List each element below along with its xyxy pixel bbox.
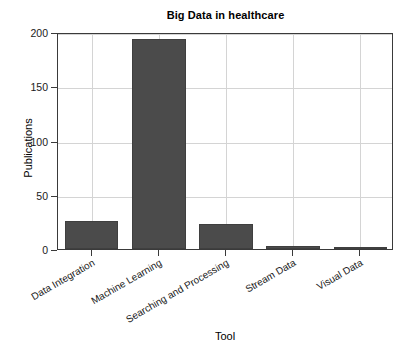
x-tick-mark bbox=[292, 250, 293, 256]
y-tick-mark bbox=[51, 196, 57, 197]
y-tick-mark bbox=[51, 33, 57, 34]
y-tick-mark bbox=[51, 87, 57, 88]
y-tick-label: 100 bbox=[30, 136, 48, 148]
y-tick-label: 150 bbox=[30, 81, 48, 93]
chart-figure: Big Data in healthcare Publications 0501… bbox=[0, 0, 414, 357]
x-tick-mark bbox=[91, 250, 92, 256]
bars-layer bbox=[58, 34, 392, 249]
chart-title: Big Data in healthcare bbox=[57, 9, 394, 21]
bar bbox=[132, 39, 186, 249]
y-tick-mark bbox=[51, 250, 57, 251]
y-tick-label: 0 bbox=[42, 244, 48, 256]
x-axis-label: Tool bbox=[57, 330, 393, 342]
bar bbox=[266, 246, 320, 249]
y-axis-label: Publications bbox=[22, 88, 34, 208]
y-tick-label: 50 bbox=[36, 190, 48, 202]
plot-area bbox=[57, 33, 393, 250]
x-tick-mark bbox=[359, 250, 360, 256]
bar bbox=[334, 247, 388, 249]
y-tick-mark bbox=[51, 142, 57, 143]
bar bbox=[65, 221, 119, 249]
x-tick-mark bbox=[158, 250, 159, 256]
y-tick-label: 200 bbox=[30, 27, 48, 39]
bar bbox=[199, 224, 253, 249]
x-tick-mark bbox=[225, 250, 226, 256]
